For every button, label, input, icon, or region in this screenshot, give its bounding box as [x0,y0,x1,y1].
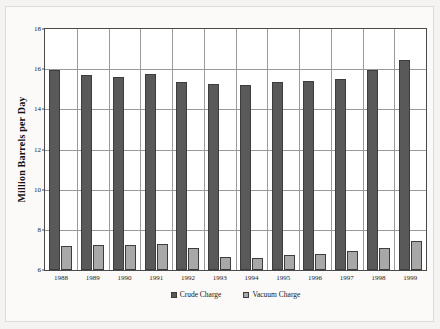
bar-crude-charge-1988[interactable] [49,70,60,270]
bar-vacuum-charge-1998[interactable] [379,248,390,270]
legend-label: Vacuum Charge [252,290,300,299]
x-axis-tick-label: 1990 [117,275,131,282]
x-axis-tick-label: 1999 [403,275,417,282]
bar-crude-charge-1989[interactable] [81,75,92,270]
x-axis-tick-label: 1998 [371,275,385,282]
bar-vacuum-charge-1991[interactable] [157,244,168,270]
bar-crude-charge-1999[interactable] [399,60,410,270]
bar-crude-charge-1994[interactable] [240,85,251,270]
bar-vacuum-charge-1994[interactable] [252,258,263,270]
bar-crude-charge-1993[interactable] [208,84,219,270]
x-axis-tick-label: 1993 [213,275,227,282]
bar-crude-charge-1998[interactable] [367,70,378,270]
x-axis-tick-label: 1989 [86,275,100,282]
bar-vacuum-charge-1996[interactable] [315,254,326,270]
bar-crude-charge-1992[interactable] [176,82,187,270]
bar-vacuum-charge-1997[interactable] [347,251,358,270]
plot-area: 681012141618 [44,28,427,271]
x-axis-tick-label: 1991 [149,275,163,282]
bar-group [45,29,77,270]
legend-item-crude-charge[interactable]: Crude Charge [171,290,222,299]
chart-page: Million Barrels per Day 681012141618 198… [0,0,440,329]
bar-crude-charge-1991[interactable] [145,74,156,270]
bar-group [363,29,395,270]
x-axis-tick-label: 1996 [308,275,322,282]
bar-crude-charge-1996[interactable] [303,81,314,270]
bar-group [267,29,299,270]
y-axis-tick-label: 8 [38,226,42,233]
y-axis-tick-label: 12 [34,146,41,153]
bar-crude-charge-1990[interactable] [113,77,124,270]
bar-group [172,29,204,270]
bar-group [331,29,363,270]
x-axis-tick-label: 1992 [181,275,195,282]
bar-group [204,29,236,270]
bar-crude-charge-1995[interactable] [272,82,283,270]
y-axis-tick-label: 18 [34,26,41,33]
bar-vacuum-charge-1989[interactable] [93,245,104,270]
bar-vacuum-charge-1999[interactable] [411,241,422,270]
legend-label: Crude Charge [180,290,222,299]
y-axis-title: Million Barrels per Day [14,28,28,271]
x-axis-tick-label: 1997 [340,275,354,282]
y-axis-tick-label: 6 [38,267,42,274]
y-axis-tick-label: 16 [34,66,41,73]
y-axis-tick-label: 10 [34,186,41,193]
legend-swatch-crude-icon [171,292,177,298]
x-axis-tick-label: 1995 [276,275,290,282]
bar-vacuum-charge-1995[interactable] [284,255,295,270]
bar-vacuum-charge-1988[interactable] [61,246,72,270]
bar-group [299,29,331,270]
chart-legend: Crude ChargeVacuum Charge [44,290,427,299]
bar-chart: Million Barrels per Day 681012141618 198… [0,0,440,329]
bar-crude-charge-1997[interactable] [335,79,346,270]
legend-swatch-vacuum-icon [243,292,249,298]
bar-group [236,29,268,270]
bar-group [140,29,172,270]
x-axis-tick-label: 1988 [54,275,68,282]
bar-group [109,29,141,270]
y-axis-tick-label: 14 [34,106,41,113]
x-axis-tick-label: 1994 [244,275,258,282]
bar-group [394,29,426,270]
plot-inner: 681012141618 [45,29,426,270]
bar-vacuum-charge-1993[interactable] [220,257,231,270]
legend-item-vacuum-charge[interactable]: Vacuum Charge [243,290,300,299]
bar-vacuum-charge-1992[interactable] [188,248,199,270]
bar-vacuum-charge-1990[interactable] [125,245,136,270]
bar-group [77,29,109,270]
